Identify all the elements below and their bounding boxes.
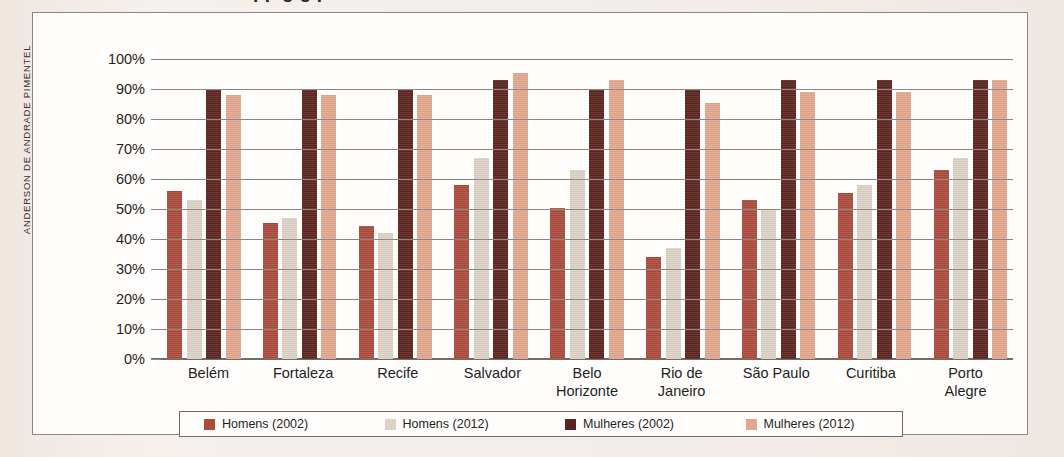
bar	[800, 92, 815, 359]
y-axis-tick	[151, 179, 161, 180]
y-axis-tick-label: 90%	[116, 81, 145, 97]
bar	[646, 257, 661, 359]
bar	[570, 170, 585, 359]
y-axis-tick	[151, 119, 161, 120]
bar	[896, 92, 911, 359]
x-axis-label-line: Recife	[356, 365, 439, 383]
y-axis-tick-label: 60%	[116, 171, 145, 187]
x-axis-label: Salvador	[451, 365, 534, 409]
legend-item[interactable]: Homens (2012)	[361, 417, 542, 431]
bar	[302, 89, 317, 359]
x-axis-label-line: Belém	[167, 365, 250, 383]
gridline	[161, 299, 1013, 300]
bar	[321, 95, 336, 359]
bar	[685, 89, 700, 359]
y-axis-tick-label: 20%	[116, 291, 145, 307]
gridline	[161, 329, 1013, 330]
y-axis-tick	[151, 359, 161, 360]
vertical-credit-text: ANDERSON DE ANDRADE PIMENTEL	[21, 10, 32, 270]
y-axis-tick	[151, 329, 161, 330]
x-axis-label: Curitiba	[829, 365, 912, 409]
gridline	[161, 59, 1013, 60]
bar	[609, 80, 624, 359]
x-axis-label-line: Rio de	[640, 365, 723, 383]
bar	[781, 80, 796, 359]
x-axis-label: Belém	[167, 365, 250, 409]
y-axis-tick-label: 40%	[116, 231, 145, 247]
x-axis-label-line: Porto	[924, 365, 1007, 383]
bar	[705, 103, 720, 360]
y-axis-tick	[151, 239, 161, 240]
x-axis-label: Rio deJaneiro	[640, 365, 723, 409]
bar	[934, 170, 949, 359]
y-axis-tick	[151, 89, 161, 90]
bar	[187, 200, 202, 359]
y-axis-tick-label: 100%	[108, 51, 145, 67]
bar	[761, 209, 776, 359]
gridline	[161, 269, 1013, 270]
x-axis-label: Recife	[356, 365, 439, 409]
y-axis-tick	[151, 209, 161, 210]
legend-item[interactable]: Mulheres (2002)	[541, 417, 722, 431]
x-axis-label-line: Curitiba	[829, 365, 912, 383]
bar	[550, 208, 565, 360]
bar	[838, 193, 853, 360]
bar	[589, 89, 604, 359]
x-axis-label-line: Janeiro	[640, 383, 723, 401]
x-axis-label-line: Salvador	[451, 365, 534, 383]
plot-area: 100%90%80%70%60%50%40%30%20%10%0%	[161, 59, 1013, 359]
x-axis-label: Fortaleza	[262, 365, 345, 409]
chart-frame: 100%90%80%70%60%50%40%30%20%10%0% BelémF…	[32, 12, 1028, 435]
bar	[398, 89, 413, 359]
y-axis-tick-label: 80%	[116, 111, 145, 127]
legend-label: Mulheres (2002)	[583, 417, 674, 431]
bar	[877, 80, 892, 359]
x-axis-label-line: São Paulo	[735, 365, 818, 383]
y-axis-tick	[151, 269, 161, 270]
bar	[167, 191, 182, 359]
cut-off-title-text: pp g g p	[253, 0, 328, 3]
x-axis-label-line: Belo	[546, 365, 629, 383]
bar	[857, 185, 872, 359]
x-axis-label-line: Alegre	[924, 383, 1007, 401]
bar	[378, 233, 393, 359]
gridline	[161, 239, 1013, 240]
bar	[263, 223, 278, 360]
legend-swatch-icon	[204, 419, 215, 430]
gridline	[161, 209, 1013, 210]
x-axis-label: BeloHorizonte	[546, 365, 629, 409]
y-axis-tick-label: 0%	[124, 351, 145, 367]
x-axis-label-line: Fortaleza	[262, 365, 345, 383]
y-axis-tick-label: 10%	[116, 321, 145, 337]
legend-item[interactable]: Homens (2002)	[180, 417, 361, 431]
gridline	[161, 89, 1013, 90]
y-axis-tick	[151, 299, 161, 300]
x-axis-label-line: Horizonte	[546, 383, 629, 401]
y-axis-tick	[151, 149, 161, 150]
y-axis-tick-label: 50%	[116, 201, 145, 217]
x-axis-label: PortoAlegre	[924, 365, 1007, 409]
legend-swatch-icon	[746, 419, 757, 430]
bar	[973, 80, 988, 359]
legend-item[interactable]: Mulheres (2012)	[722, 417, 903, 431]
chart-legend: Homens (2002)Homens (2012)Mulheres (2002…	[179, 411, 903, 437]
bar	[226, 95, 241, 359]
legend-label: Homens (2012)	[403, 417, 489, 431]
cut-off-title-strip: pp g g p	[0, 0, 1064, 10]
gridline	[161, 119, 1013, 120]
bar	[454, 185, 469, 359]
bar	[992, 80, 1007, 359]
bar	[417, 95, 432, 359]
bar	[742, 200, 757, 359]
bar	[513, 73, 528, 360]
gridline	[161, 149, 1013, 150]
legend-swatch-icon	[565, 419, 576, 430]
x-axis-labels: BelémFortalezaRecifeSalvadorBeloHorizont…	[161, 365, 1013, 409]
bar	[493, 80, 508, 359]
legend-swatch-icon	[385, 419, 396, 430]
bar	[666, 248, 681, 359]
y-axis-tick	[151, 59, 161, 60]
bar	[206, 89, 221, 359]
bar	[359, 226, 374, 360]
legend-label: Homens (2002)	[222, 417, 308, 431]
